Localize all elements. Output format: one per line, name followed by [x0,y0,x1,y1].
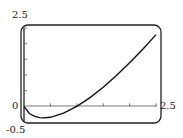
screen-frame [21,25,161,123]
plot-area [0,0,183,138]
axis-ticks [24,28,156,106]
data-curve [24,35,156,118]
